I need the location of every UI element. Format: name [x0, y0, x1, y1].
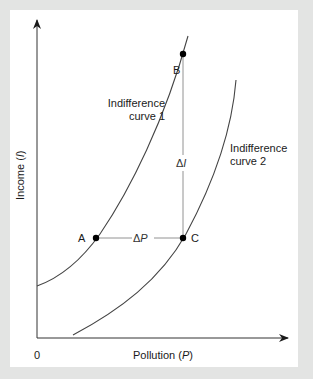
delta-p-label: ΔP	[133, 232, 148, 245]
point-a-dot	[93, 235, 99, 241]
x-axis-label: Pollution (P)	[133, 349, 193, 362]
y-axis-label: Income (I)	[14, 150, 26, 200]
point-b-dot	[180, 51, 186, 57]
indifference-curve-1	[37, 36, 188, 286]
delta-i-label: ΔI	[176, 157, 186, 170]
point-c-dot	[180, 235, 186, 241]
curve-2-label: Indifferencecurve 2	[230, 142, 287, 168]
point-c-label: C	[191, 232, 199, 245]
diagram-canvas	[0, 0, 313, 379]
point-b-label: B	[173, 64, 180, 77]
curve-1-label: Indifferencecurve 1	[103, 97, 165, 123]
point-a-label: A	[78, 232, 85, 245]
origin-label: 0	[34, 349, 40, 362]
